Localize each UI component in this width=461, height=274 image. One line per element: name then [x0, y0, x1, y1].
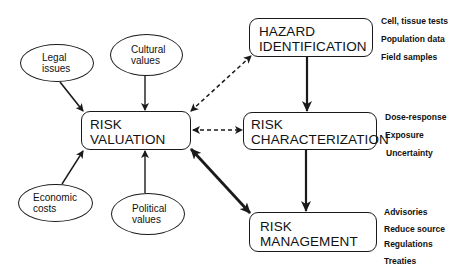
ellipse-cultural-values: Cultural values: [110, 34, 183, 76]
note-treaties: Treaties: [384, 256, 416, 266]
note-advisories: Advisories: [384, 207, 427, 217]
box-risk-characterization: RISK CHARACTERIZATION: [243, 112, 377, 150]
political-line1: Political: [132, 203, 166, 214]
note-field-samples: Field samples: [381, 52, 437, 62]
hazard-line2: IDENTIFICATION: [259, 39, 372, 54]
management-line1: RISK: [260, 219, 376, 234]
characterization-line2: CHARACTERIZATION: [251, 132, 376, 147]
arrow-legal-to-valuation: [60, 82, 83, 111]
note-dose-response: Dose-response: [385, 112, 446, 122]
note-reduce-source: Reduce source: [384, 224, 445, 234]
political-line2: values: [132, 214, 161, 225]
note-regulations: Regulations: [384, 239, 433, 249]
ellipse-political-values: Political values: [111, 193, 185, 235]
valuation-line2: VALUATION: [90, 132, 190, 147]
box-hazard-identification: HAZARD IDENTIFICATION: [249, 18, 373, 57]
note-population-data: Population data: [381, 34, 445, 44]
arrow-economic-to-valuation: [62, 151, 83, 184]
legal-line2: issues: [42, 63, 70, 74]
ellipse-legal-issues: Legal issues: [20, 44, 94, 82]
note-uncertainty: Uncertainty: [386, 148, 433, 158]
box-risk-valuation: RISK VALUATION: [81, 111, 191, 150]
economic-line2: costs: [33, 203, 56, 214]
cultural-line2: values: [131, 55, 160, 66]
characterization-line1: RISK: [251, 117, 376, 132]
economic-line1: Economic: [33, 192, 77, 203]
ellipse-economic-costs: Economic costs: [18, 184, 93, 222]
cultural-line1: Cultural: [131, 44, 165, 55]
box-risk-management: RISK MANAGEMENT: [249, 212, 377, 252]
note-exposure: Exposure: [385, 130, 424, 140]
legal-line1: Legal: [42, 52, 66, 63]
note-cell-tissue-tests: Cell, tissue tests: [381, 16, 448, 26]
arrow-valuation-hazard: [191, 56, 251, 111]
hazard-line1: HAZARD: [259, 24, 372, 39]
valuation-line1: RISK: [90, 117, 190, 132]
management-line2: MANAGEMENT: [260, 234, 376, 249]
arrow-valuation-management: [191, 149, 250, 213]
